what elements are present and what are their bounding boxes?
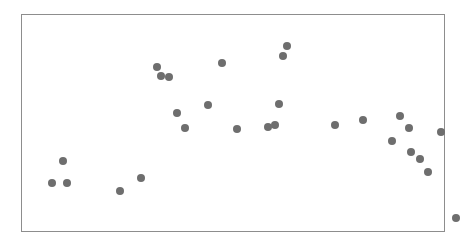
data-point — [283, 42, 291, 50]
scatter-plot-canvas — [0, 0, 464, 245]
plot-frame — [21, 14, 445, 232]
data-point — [233, 125, 241, 133]
data-point — [48, 179, 56, 187]
data-point — [181, 124, 189, 132]
data-point — [388, 137, 396, 145]
data-point — [437, 128, 445, 136]
data-point — [452, 214, 460, 222]
data-point — [359, 116, 367, 124]
data-point — [165, 73, 173, 81]
data-point — [157, 72, 165, 80]
data-point — [275, 100, 283, 108]
data-point — [153, 63, 161, 71]
data-point — [396, 112, 404, 120]
data-point — [63, 179, 71, 187]
data-point — [59, 157, 67, 165]
plot-area — [22, 15, 444, 231]
data-point — [137, 174, 145, 182]
data-point — [331, 121, 339, 129]
data-point — [405, 124, 413, 132]
data-point — [204, 101, 212, 109]
data-point — [416, 155, 424, 163]
data-point — [116, 187, 124, 195]
data-point — [218, 59, 226, 67]
data-point — [271, 121, 279, 129]
data-point — [407, 148, 415, 156]
data-point — [424, 168, 432, 176]
data-point — [279, 52, 287, 60]
data-point — [173, 109, 181, 117]
